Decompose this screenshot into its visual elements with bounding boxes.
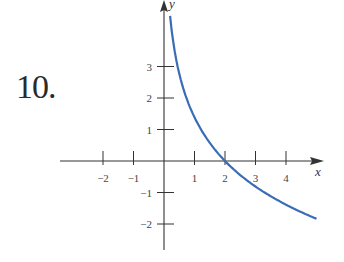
x-tick-label: −2 bbox=[97, 172, 109, 184]
axis-ticks: −2−11234321−1−2 bbox=[97, 61, 289, 231]
y-axis-label: y bbox=[167, 0, 175, 11]
x-tick-label: 4 bbox=[283, 172, 289, 184]
y-tick-label: 3 bbox=[147, 61, 153, 73]
x-axis-label: x bbox=[314, 164, 321, 179]
x-tick-label: 2 bbox=[222, 172, 228, 184]
x-tick-label: 1 bbox=[192, 172, 198, 184]
y-tick-label: −2 bbox=[140, 218, 152, 230]
y-tick-label: 2 bbox=[147, 92, 153, 104]
y-tick-label: −1 bbox=[140, 187, 152, 199]
chart: xy −2−11234321−1−2 bbox=[0, 0, 344, 262]
x-tick-label: 3 bbox=[253, 172, 259, 184]
axes: xy bbox=[60, 0, 324, 250]
x-tick-label: −1 bbox=[128, 172, 140, 184]
y-tick-label: 1 bbox=[147, 124, 153, 136]
curve-line bbox=[170, 16, 316, 219]
